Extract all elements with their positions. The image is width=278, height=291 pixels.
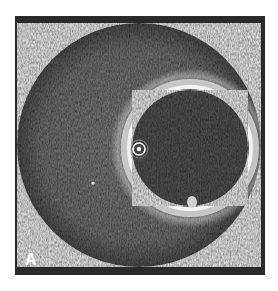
ultrasound-image-panel: A (15, 16, 265, 275)
catheter-icon (130, 140, 148, 158)
plaque-nodule (187, 196, 197, 208)
panel-label: A (25, 251, 37, 269)
ivus-cross-section (15, 16, 265, 275)
echo-speck (91, 181, 94, 184)
lumen (132, 90, 248, 206)
